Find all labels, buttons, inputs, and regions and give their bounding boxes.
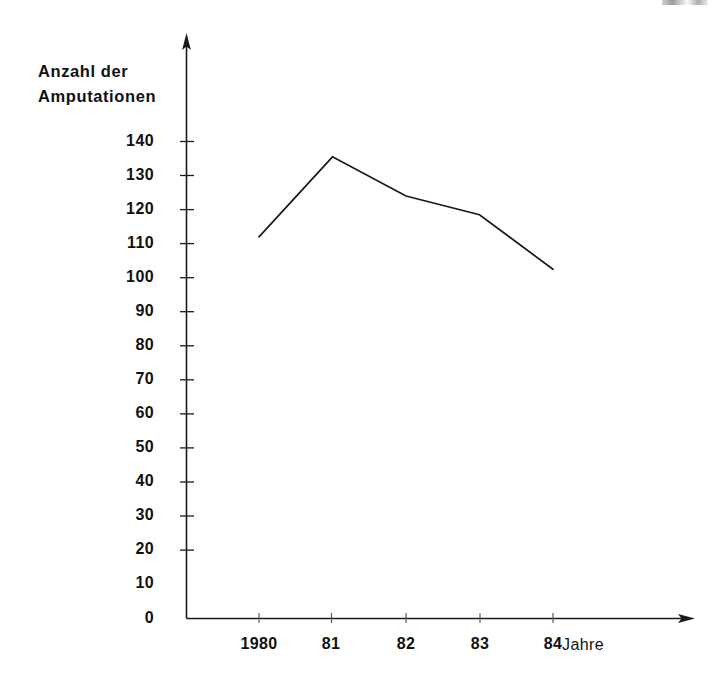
data-line-amputations bbox=[259, 157, 553, 269]
y-axis bbox=[182, 33, 191, 619]
line-chart-figure: Anzahl der Amputationen 140 130 120 110 … bbox=[0, 0, 725, 676]
x-axis bbox=[187, 614, 696, 623]
plot-area bbox=[0, 0, 725, 676]
